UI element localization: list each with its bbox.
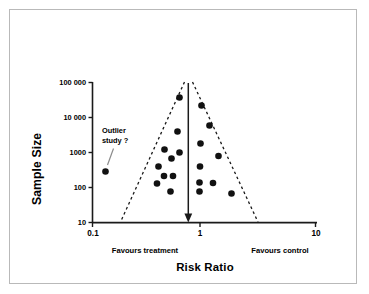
ytick-label-10000: 10 000 bbox=[34, 114, 86, 121]
data-point bbox=[161, 173, 168, 180]
outlier-annotation-line1: Outlier bbox=[102, 127, 126, 134]
x-axis-title: Risk Ratio bbox=[176, 262, 234, 273]
xtick-label-10: 10 bbox=[311, 230, 320, 238]
data-point bbox=[228, 190, 235, 197]
data-point bbox=[170, 173, 177, 180]
data-point bbox=[210, 180, 217, 187]
data-point bbox=[215, 153, 222, 160]
data-point bbox=[161, 146, 168, 153]
data-points bbox=[102, 94, 235, 197]
data-point bbox=[168, 155, 175, 162]
favours-treatment-label: Favours treatment bbox=[112, 247, 178, 255]
funnel-plot-canvas bbox=[0, 0, 369, 294]
data-point bbox=[174, 128, 181, 135]
outlier-annotation-line2: study ? bbox=[102, 137, 128, 144]
funnel-bound-lines bbox=[121, 82, 259, 222]
data-point bbox=[197, 163, 204, 170]
favours-control-label: Favours control bbox=[251, 247, 308, 255]
reference-arrow bbox=[184, 83, 192, 223]
y-axis-title: Sample Size bbox=[31, 133, 43, 205]
funnel-left-bound bbox=[121, 82, 185, 222]
data-point bbox=[196, 188, 203, 195]
data-point bbox=[196, 179, 203, 186]
xtick-label-0-1: 0.1 bbox=[87, 230, 98, 238]
ytick-label-100000: 100 000 bbox=[34, 79, 86, 86]
data-point bbox=[176, 94, 183, 101]
data-point bbox=[206, 122, 213, 129]
data-point bbox=[197, 140, 204, 147]
outlier-leader-line bbox=[108, 149, 114, 166]
data-point bbox=[167, 188, 174, 195]
data-point bbox=[155, 163, 162, 170]
xtick-label-1: 1 bbox=[198, 230, 203, 238]
data-point bbox=[154, 180, 161, 187]
ytick-label-10: 10 bbox=[34, 219, 86, 226]
data-point bbox=[102, 168, 109, 175]
data-point bbox=[176, 149, 183, 156]
data-point bbox=[198, 102, 205, 109]
